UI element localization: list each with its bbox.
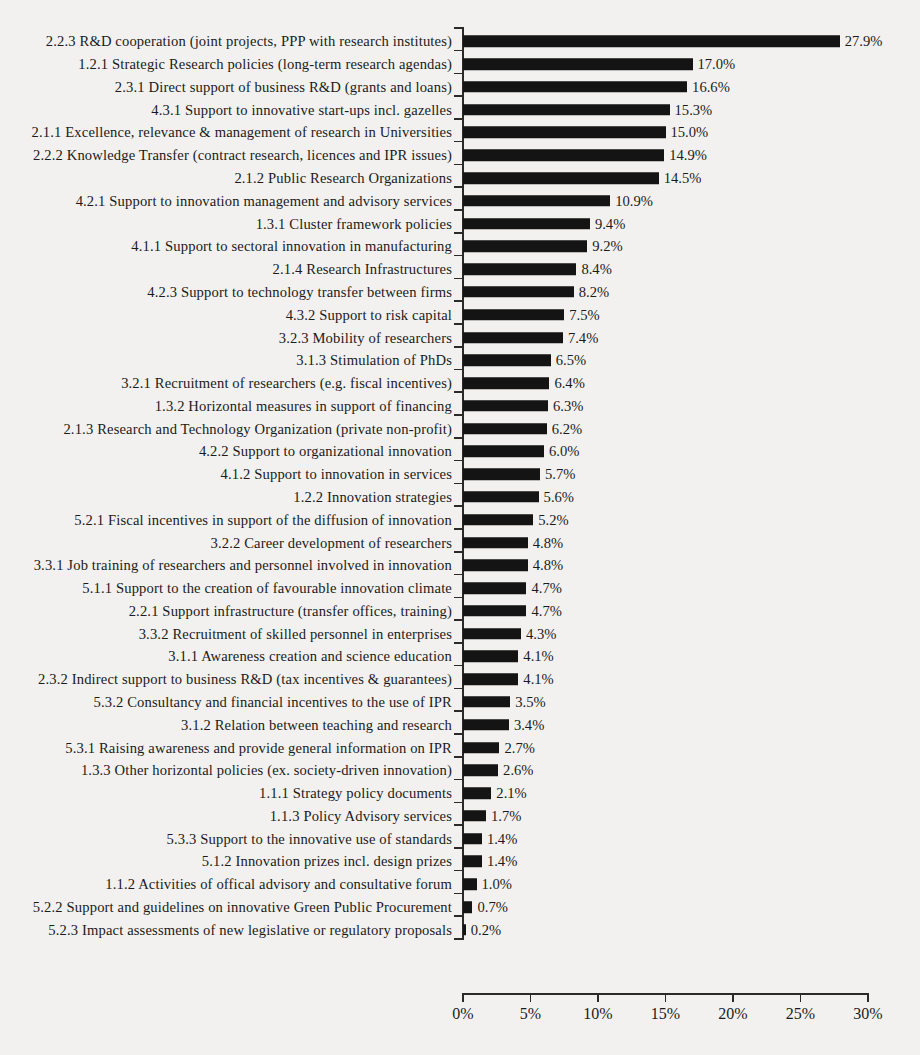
category-label: 5.1.2 Innovation prizes incl. design pri…	[202, 854, 452, 869]
category-label: 1.3.3 Other horizontal policies (ex. soc…	[81, 763, 452, 778]
bar	[463, 787, 491, 799]
bar-value-label: 1.7%	[491, 809, 521, 824]
y-axis-tick	[454, 847, 463, 849]
bar-value-label: 15.0%	[671, 125, 709, 140]
bar-value-label: 5.2%	[538, 512, 568, 527]
y-axis-tick	[454, 733, 463, 735]
bar	[463, 195, 610, 207]
y-axis-tick	[454, 597, 463, 599]
bar	[463, 765, 498, 777]
bar	[463, 218, 590, 230]
bar	[463, 719, 509, 731]
bar	[463, 446, 544, 458]
category-label: 3.3.1 Job training of researchers and pe…	[34, 558, 452, 573]
bar	[463, 58, 693, 70]
x-axis-tick-label: 30%	[853, 1006, 882, 1022]
y-axis-tick	[454, 483, 463, 485]
category-label: 4.2.3 Support to technology transfer bet…	[147, 285, 452, 300]
bar	[463, 651, 518, 663]
y-axis-tick	[454, 551, 463, 553]
y-axis-tick	[454, 232, 463, 234]
y-axis-tick	[454, 505, 463, 507]
category-label: 5.2.2 Support and guidelines on innovati…	[33, 900, 452, 915]
bar-value-label: 9.4%	[595, 216, 625, 231]
y-axis-tick	[454, 688, 463, 690]
bar	[463, 127, 666, 139]
category-label: 1.3.2 Horizontal measures in support of …	[155, 399, 452, 414]
x-axis-tick-label: 10%	[583, 1006, 612, 1022]
bar	[463, 332, 563, 344]
category-label: 1.2.2 Innovation strategies	[293, 490, 452, 505]
x-axis-tick-label: 20%	[718, 1006, 747, 1022]
bar-value-label: 2.1%	[496, 786, 526, 801]
bar	[463, 355, 551, 367]
y-axis-tick	[454, 710, 463, 712]
bar	[463, 36, 840, 48]
bar	[463, 263, 576, 275]
y-axis-tick	[454, 255, 463, 257]
category-label: 2.3.2 Indirect support to business R&D (…	[38, 672, 452, 687]
y-axis-tick	[454, 369, 463, 371]
x-axis-tick	[462, 993, 464, 1002]
bar-value-label: 8.2%	[579, 285, 609, 300]
category-label: 2.1.2 Public Research Organizations	[234, 171, 452, 186]
bar	[463, 468, 540, 480]
category-label: 1.2.1 Strategic Research policies (long-…	[78, 57, 452, 72]
bar	[463, 286, 574, 298]
bar-value-label: 4.1%	[523, 672, 553, 687]
bar-value-label: 2.7%	[504, 740, 534, 755]
y-axis-tick	[454, 619, 463, 621]
bar	[463, 537, 528, 549]
bar	[463, 673, 518, 685]
x-axis-tick-label: 5%	[520, 1006, 541, 1022]
bar	[463, 400, 548, 412]
x-axis-tick	[530, 993, 532, 1002]
bar	[463, 605, 526, 617]
bar	[463, 560, 528, 572]
category-label: 4.2.2 Support to organizational innovati…	[199, 444, 452, 459]
category-label: 4.1.1 Support to sectoral innovation in …	[131, 239, 452, 254]
category-label: 3.1.3 Stimulation of PhDs	[296, 353, 452, 368]
bar	[463, 582, 526, 594]
bar	[463, 104, 670, 116]
y-axis-tick	[454, 164, 463, 166]
x-axis-tick	[732, 993, 734, 1002]
bar	[463, 423, 547, 435]
bar	[463, 491, 539, 503]
bar-value-label: 2.6%	[503, 763, 533, 778]
bar-value-label: 1.0%	[482, 877, 512, 892]
bar	[463, 878, 477, 890]
category-label: 4.2.1 Support to innovation management a…	[76, 194, 452, 209]
bar	[463, 150, 664, 162]
bar-value-label: 6.5%	[556, 353, 586, 368]
bar-value-label: 3.5%	[515, 695, 545, 710]
bar-value-label: 4.8%	[533, 558, 563, 573]
y-axis-tick	[454, 95, 463, 97]
category-label: 2.1.3 Research and Technology Organizati…	[63, 421, 452, 436]
y-axis-tick	[454, 346, 463, 348]
y-axis-tick	[454, 460, 463, 462]
category-label: 3.1.2 Relation between teaching and rese…	[181, 717, 452, 732]
bar-value-label: 4.7%	[531, 581, 561, 596]
y-axis-tick	[454, 528, 463, 530]
y-axis-tick	[454, 824, 463, 826]
category-label: 1.1.3 Policy Advisory services	[270, 809, 452, 824]
y-axis-tick	[454, 642, 463, 644]
y-axis-tick	[454, 938, 463, 940]
bar	[463, 628, 521, 640]
bar	[463, 241, 587, 253]
category-label: 1.1.2 Activities of offical advisory and…	[105, 877, 452, 892]
category-label: 5.3.3 Support to the innovative use of s…	[167, 831, 452, 846]
bar	[463, 924, 466, 936]
bar-value-label: 4.8%	[533, 535, 563, 550]
bar-value-label: 6.4%	[554, 376, 584, 391]
bar-value-label: 7.5%	[569, 307, 599, 322]
bar-value-label: 14.5%	[664, 171, 702, 186]
y-axis-tick	[454, 141, 463, 143]
bar	[463, 696, 510, 708]
bar-value-label: 1.4%	[487, 854, 517, 869]
bar-value-label: 27.9%	[845, 34, 883, 49]
bar-value-label: 14.9%	[669, 148, 707, 163]
y-axis-tick	[454, 665, 463, 667]
bar-value-label: 0.7%	[477, 900, 507, 915]
